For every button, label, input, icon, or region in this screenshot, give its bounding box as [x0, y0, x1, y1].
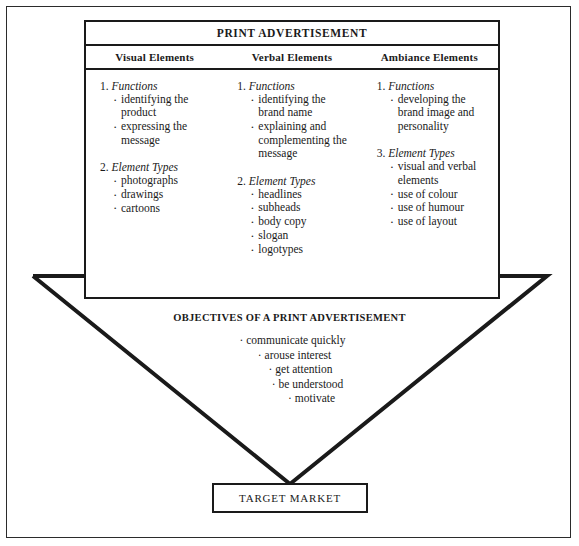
list-item: logotypes	[250, 243, 352, 256]
list-item: use of layout	[390, 215, 492, 228]
list-item: body copy	[250, 215, 352, 228]
list-item: identifying the brand name	[250, 93, 352, 120]
list-item: visual and verbal elements	[390, 160, 492, 187]
column-verbal-elements: 1. Functions identifying the brand name …	[221, 80, 358, 271]
objectives-title: OBJECTIVES OF A PRINT ADVERTISEMENT	[0, 312, 579, 323]
list-item: identifying the product	[113, 93, 215, 120]
list-item: explaining and complementing the message	[250, 120, 352, 160]
list-item: developing the brand image and personali…	[390, 93, 492, 133]
column-ambiance-elements: 1. Functions developing the brand image …	[359, 80, 498, 271]
list-item: cartoons	[113, 202, 215, 215]
bullet-glyph: ·	[288, 392, 292, 404]
list-item: drawings	[113, 188, 215, 201]
list-item: ·communicate quickly	[0, 333, 579, 348]
group-heading: 2. Element Types	[237, 175, 352, 187]
list-item: slogan	[250, 229, 352, 242]
column-header-row: Visual Elements Verbal Elements Ambiance…	[86, 46, 498, 70]
list-item: ·arouse interest	[0, 348, 579, 363]
group-functions: 1. Functions identifying the product exp…	[100, 80, 215, 147]
target-market-label: TARGET MARKET	[239, 492, 341, 504]
list-item: expressing the message	[113, 120, 215, 147]
diagram-page: PRINT ADVERTISEMENT Visual Elements Verb…	[0, 0, 579, 546]
bullet-list: headlines subheads body copy slogan logo…	[237, 188, 352, 257]
bullet-list: photographs drawings cartoons	[100, 174, 215, 215]
column-header-visual: Visual Elements	[86, 51, 223, 63]
objectives-list: ·communicate quickly ·arouse interest ·g…	[0, 333, 579, 406]
list-item: use of colour	[390, 188, 492, 201]
column-header-verbal: Verbal Elements	[223, 51, 360, 63]
group-heading: 2. Element Types	[100, 161, 215, 173]
list-item: ·be understood	[0, 377, 579, 392]
group-element-types: 2. Element Types headlines subheads body…	[237, 175, 352, 257]
columns-container: 1. Functions identifying the product exp…	[86, 70, 498, 271]
column-header-ambiance: Ambiance Elements	[361, 51, 498, 63]
target-market-box: TARGET MARKET	[212, 483, 368, 513]
bullet-list: visual and verbal elements use of colour…	[377, 160, 492, 229]
group-element-types: 3. Element Types visual and verbal eleme…	[377, 147, 492, 229]
group-heading: 1. Functions	[237, 80, 352, 92]
objectives-block: OBJECTIVES OF A PRINT ADVERTISEMENT ·com…	[0, 312, 579, 406]
group-heading: 3. Element Types	[377, 147, 492, 159]
list-item: headlines	[250, 188, 352, 201]
list-item: photographs	[113, 174, 215, 187]
list-item: use of humour	[390, 201, 492, 214]
bullet-glyph: ·	[268, 363, 272, 375]
list-item: ·motivate	[0, 391, 579, 406]
group-element-types: 2. Element Types photographs drawings ca…	[100, 161, 215, 215]
group-heading: 1. Functions	[100, 80, 215, 92]
list-item: ·get attention	[0, 362, 579, 377]
page-title: PRINT ADVERTISEMENT	[217, 27, 367, 39]
group-heading: 1. Functions	[377, 80, 492, 92]
bullet-list: identifying the product expressing the m…	[100, 93, 215, 147]
group-functions: 1. Functions identifying the brand name …	[237, 80, 352, 161]
group-functions: 1. Functions developing the brand image …	[377, 80, 492, 133]
bullet-list: identifying the brand name explaining an…	[237, 93, 352, 161]
bullet-glyph: ·	[258, 349, 262, 361]
column-visual-elements: 1. Functions identifying the product exp…	[86, 80, 221, 271]
list-item: subheads	[250, 201, 352, 214]
bullet-list: developing the brand image and personali…	[377, 93, 492, 133]
bullet-glyph: ·	[272, 378, 276, 390]
bullet-glyph: ·	[239, 334, 243, 346]
print-advertisement-title-bar: PRINT ADVERTISEMENT	[86, 22, 498, 46]
print-advertisement-box: PRINT ADVERTISEMENT Visual Elements Verb…	[84, 20, 500, 299]
